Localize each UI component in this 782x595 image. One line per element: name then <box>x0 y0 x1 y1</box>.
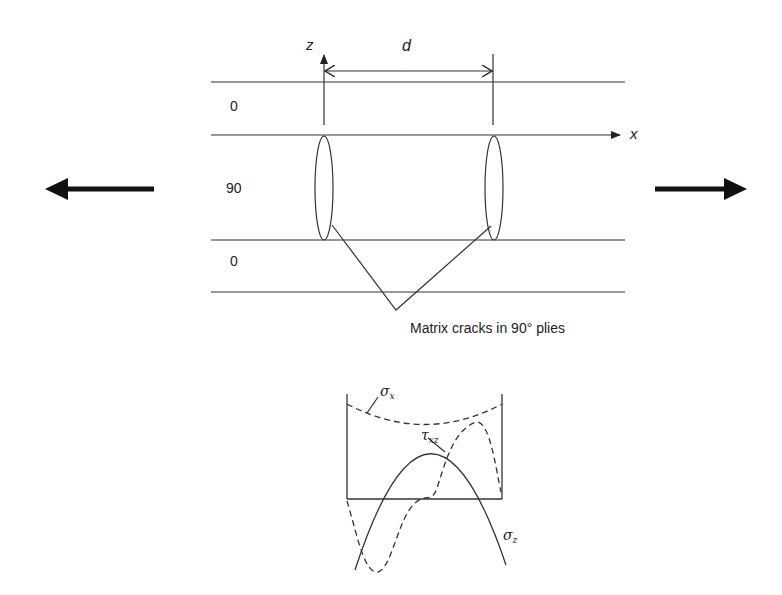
ply-label-middle: 90 <box>226 180 242 196</box>
tau-xz-label: τxz <box>421 427 439 445</box>
ply-label-top: 0 <box>230 98 238 114</box>
sigma-x-curve <box>347 404 502 425</box>
x-axis-label: x <box>629 125 638 142</box>
sigma-z-label: σz <box>503 527 518 545</box>
stress-plot: σx σz τxz <box>347 383 518 572</box>
crack-left <box>315 136 333 240</box>
crack-right <box>485 136 503 240</box>
sigma-x-leader <box>367 397 378 413</box>
load-arrow-left <box>45 178 154 200</box>
sigma-z-curve <box>355 454 506 570</box>
sigma-x-label: σx <box>380 383 395 401</box>
dimension-label-d: d <box>402 37 412 54</box>
z-axis-label: z <box>305 36 314 53</box>
crack-leader-lines <box>332 225 491 310</box>
ply-boundaries <box>211 82 625 292</box>
laminate-diagram: x z d 0 90 0 Matrix cracks in 90° plies … <box>0 0 782 595</box>
load-arrow-right <box>655 178 747 200</box>
crack-annotation: Matrix cracks in 90° plies <box>410 320 565 336</box>
ply-label-bottom: 0 <box>230 253 238 269</box>
